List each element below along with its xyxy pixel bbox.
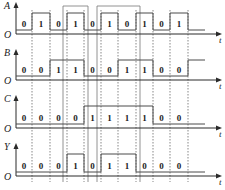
signal-label: C	[4, 93, 11, 104]
bit-value: 1	[107, 113, 112, 123]
bit-value: 0	[56, 19, 61, 29]
bit-value: 1	[73, 65, 78, 75]
y-axis-arrow-icon	[14, 143, 19, 149]
bit-value: 1	[142, 65, 147, 75]
time-label: t	[219, 177, 222, 187]
signal-y: YOt0001011000	[4, 141, 222, 187]
signal-c: COt0000111100	[4, 93, 222, 139]
signal-label: B	[4, 47, 10, 58]
signal-a: AOt0101010101	[3, 0, 222, 45]
bit-value: 1	[39, 19, 44, 29]
bit-value: 0	[56, 113, 61, 123]
y-axis-arrow-icon	[14, 95, 19, 101]
bit-value: 1	[177, 19, 182, 29]
timing-diagram: AOt0101010101BOt0011001100COt0000111100Y…	[0, 0, 225, 190]
bit-value: 0	[90, 161, 95, 171]
bit-value: 0	[142, 161, 147, 171]
bit-value: 0	[159, 113, 164, 123]
signal-b: BOt0011001100	[4, 47, 222, 91]
origin-label: O	[4, 29, 11, 40]
bit-value: 1	[107, 161, 112, 171]
bit-value: 0	[125, 19, 130, 29]
bit-value: 0	[39, 161, 44, 171]
bit-value: 0	[159, 161, 164, 171]
bit-value: 1	[73, 19, 78, 29]
origin-label: O	[4, 75, 11, 86]
bit-value: 1	[125, 65, 130, 75]
bit-value: 1	[142, 113, 147, 123]
signal-label: Y	[4, 141, 11, 152]
time-label: t	[219, 129, 222, 139]
bit-value: 1	[125, 113, 130, 123]
bit-value: 1	[125, 161, 130, 171]
bit-value: 0	[159, 19, 164, 29]
bit-value: 0	[107, 65, 112, 75]
bit-value: 0	[177, 65, 182, 75]
signal-label: A	[3, 0, 11, 11]
bit-value: 0	[177, 161, 182, 171]
bit-value: 0	[90, 65, 95, 75]
bit-value: 0	[56, 161, 61, 171]
bit-value: 0	[177, 113, 182, 123]
time-label: t	[219, 35, 222, 45]
bit-value: 1	[107, 19, 112, 29]
bit-value: 0	[73, 113, 78, 123]
bit-value: 1	[90, 113, 95, 123]
bit-value: 0	[22, 19, 27, 29]
bit-value: 0	[22, 113, 27, 123]
bit-value: 1	[142, 19, 147, 29]
bit-value: 0	[90, 19, 95, 29]
bit-value: 1	[56, 65, 61, 75]
bit-value: 0	[22, 65, 27, 75]
bit-value: 0	[39, 65, 44, 75]
y-axis-arrow-icon	[14, 2, 19, 8]
dashed-guides	[32, 10, 188, 182]
bit-value: 1	[73, 161, 78, 171]
highlight-box	[97, 6, 140, 182]
time-label: t	[219, 81, 222, 91]
timing-diagram-canvas: AOt0101010101BOt0011001100COt0000111100Y…	[0, 0, 225, 190]
bit-value: 0	[39, 113, 44, 123]
y-axis-arrow-icon	[14, 49, 19, 55]
origin-label: O	[4, 123, 11, 134]
bit-value: 0	[159, 65, 164, 75]
bit-value: 0	[22, 161, 27, 171]
origin-label: O	[4, 171, 11, 182]
